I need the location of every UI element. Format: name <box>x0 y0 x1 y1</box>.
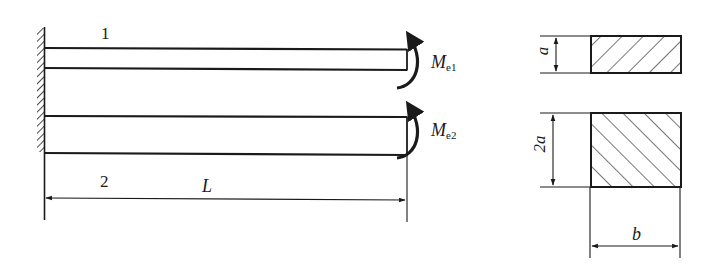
section-2-height-label: 2a <box>530 136 549 153</box>
wall-hatching-icon <box>37 28 44 152</box>
section-2-hatch <box>591 113 681 187</box>
section-1-height-label: a <box>533 47 552 56</box>
diagram-canvas: 1 Me1 Me2 2 L a 2 <box>0 0 708 273</box>
beam-2 <box>44 116 407 155</box>
beam-1: 1 <box>44 24 407 71</box>
moment-me1-label: Me1 <box>430 52 456 73</box>
length-label: L <box>201 176 212 196</box>
moment-me2-label: Me2 <box>430 120 456 141</box>
section-1-hatch <box>591 36 681 73</box>
moment-me2: Me2 <box>397 104 456 158</box>
moment-me1: Me1 <box>397 34 456 88</box>
beam-1-label: 1 <box>101 24 110 43</box>
cross-section-2: 2a b <box>530 113 681 258</box>
beam-2-label: 2 <box>100 172 109 191</box>
cross-section-1: a <box>533 36 681 73</box>
length-dimension: 2 L <box>46 155 407 222</box>
section-width-label: b <box>632 224 641 244</box>
fixed-wall-support <box>37 27 45 220</box>
